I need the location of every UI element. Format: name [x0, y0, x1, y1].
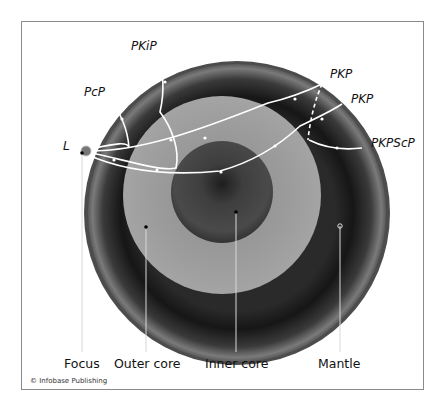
label-pkp-2: PKP	[351, 92, 374, 106]
label-pcp: PcP	[84, 85, 106, 99]
label-outer-core: Outer core	[114, 356, 181, 371]
inner-core-dot	[234, 210, 238, 214]
earth-diagram: PKiP PcP PKP PKP PKPScP L Focus Outer co…	[0, 0, 446, 413]
credit: © Infobase Publishing	[30, 377, 107, 385]
label-pkip: PKiP	[131, 39, 157, 53]
outer-core-dot	[144, 225, 148, 229]
label-pkpscp: PKPScP	[371, 136, 416, 150]
label-pkp-1: PKP	[330, 67, 353, 81]
label-inner-core: Inner core	[205, 356, 269, 371]
label-focus: Focus	[64, 356, 100, 371]
focus-dot	[80, 151, 84, 155]
label-mantle: Mantle	[318, 356, 361, 371]
label-l: L	[63, 139, 70, 153]
